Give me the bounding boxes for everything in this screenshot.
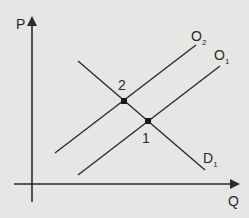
demand-curve-d1 xyxy=(78,61,205,170)
supply-demand-diagram: P Q D1 O2 O1 2 1 xyxy=(0,0,249,218)
equilibrium-point-2-label: 2 xyxy=(118,77,126,93)
equilibrium-point-1 xyxy=(145,118,151,124)
y-axis-arrow-icon xyxy=(27,16,37,26)
supply-curve-o2-label: O2 xyxy=(191,28,207,47)
equilibrium-point-1-label: 1 xyxy=(142,130,150,146)
x-axis-arrow-icon xyxy=(230,179,240,189)
demand-curve-d1-label: D1 xyxy=(203,150,218,169)
y-axis-label: P xyxy=(16,16,25,32)
equilibrium-point-2 xyxy=(121,98,127,104)
x-axis-label: Q xyxy=(228,193,239,209)
supply-curve-o1-label: O1 xyxy=(214,47,230,66)
